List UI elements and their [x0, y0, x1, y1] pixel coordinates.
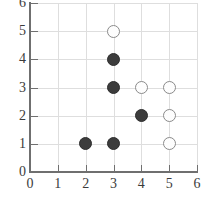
gridline-vertical-6 [197, 3, 198, 172]
y-axis-label-5: 5 [8, 23, 26, 39]
y-axis-tick-3 [31, 88, 38, 89]
data-point-open-5-3 [163, 81, 176, 94]
y-axis-label-1: 1 [8, 136, 26, 152]
y-axis-tick-1 [31, 144, 38, 145]
x-axis-label-1: 1 [48, 176, 68, 192]
y-axis-tick-5 [31, 31, 38, 32]
gridline-horizontal-6 [30, 3, 197, 4]
x-axis-label-3: 3 [104, 176, 124, 192]
x-axis-tick-3 [114, 165, 115, 172]
x-axis-tick-6 [197, 165, 198, 172]
data-point-filled-3-4 [107, 53, 120, 66]
data-point-open-5-1 [163, 137, 176, 150]
y-axis-label-2: 2 [8, 108, 26, 124]
data-point-filled-4-2 [135, 109, 148, 122]
scatter-plot-figure: 01234560123456 [0, 0, 215, 203]
y-axis-tick-4 [31, 59, 38, 60]
data-point-filled-3-3 [107, 81, 120, 94]
y-axis-label-0: 0 [8, 164, 26, 180]
data-point-open-3-5 [107, 25, 120, 38]
y-axis-tick-6 [31, 3, 38, 4]
y-axis-label-3: 3 [8, 80, 26, 96]
data-point-open-5-2 [163, 109, 176, 122]
y-axis-label-6: 6 [8, 0, 26, 11]
y-axis-tick-2 [31, 116, 38, 117]
data-point-open-4-3 [135, 81, 148, 94]
x-axis-tick-4 [141, 165, 142, 172]
x-axis-label-2: 2 [76, 176, 96, 192]
y-axis-label-4: 4 [8, 51, 26, 67]
x-axis-label-4: 4 [131, 176, 151, 192]
x-axis-tick-1 [58, 165, 59, 172]
x-axis-label-6: 6 [187, 176, 207, 192]
x-axis-label-5: 5 [159, 176, 179, 192]
x-axis-tick-2 [86, 165, 87, 172]
x-axis-tick-5 [169, 165, 170, 172]
